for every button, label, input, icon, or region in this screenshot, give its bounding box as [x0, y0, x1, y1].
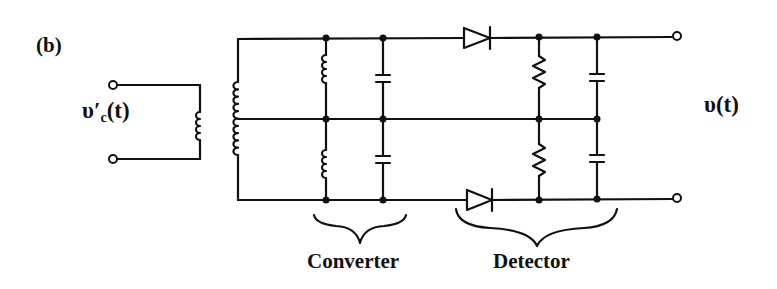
- converter-brace: [314, 215, 406, 243]
- converter-label: Converter: [307, 251, 399, 272]
- input-voltage-suffix: (t): [107, 98, 130, 123]
- input-terminal-bottom: [109, 155, 117, 163]
- output-terminal-bottom: [673, 194, 681, 202]
- diode-bottom: [467, 189, 492, 211]
- output-voltage-label: υ(t): [704, 93, 739, 116]
- diode-top: [464, 27, 490, 49]
- converter-capacitor-top: [376, 38, 390, 119]
- input-voltage-symbol: υ′: [82, 98, 100, 123]
- output-terminal-top: [673, 32, 681, 40]
- circuit-diagram: (b) υ′c(t) υ(t) Converter Detector: [0, 0, 777, 289]
- input-terminal-top: [109, 81, 117, 89]
- detector-capacitor-top: [590, 37, 604, 119]
- detector-resistor-top: [533, 38, 545, 119]
- input-voltage-label: υ′c(t): [82, 99, 130, 125]
- converter-capacitor-bottom: [376, 119, 390, 200]
- detector-capacitor-bottom: [590, 119, 604, 199]
- top-rail: [238, 37, 673, 39]
- detector-brace: [456, 209, 617, 246]
- panel-label: (b): [36, 35, 62, 56]
- detector-resistor-bottom: [533, 119, 545, 200]
- converter-inductor-bottom: [322, 119, 326, 200]
- bottom-rail: [238, 199, 673, 200]
- converter-inductor-top: [322, 38, 326, 119]
- detector-label: Detector: [493, 251, 570, 272]
- circuit-schematic: [0, 0, 777, 289]
